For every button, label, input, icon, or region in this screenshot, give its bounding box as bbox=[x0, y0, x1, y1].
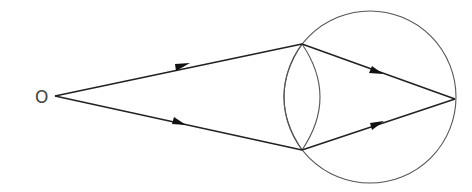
upper-refracted-ray bbox=[302, 44, 455, 99]
upper-incident-ray bbox=[0, 0, 302, 96]
eye-lens-ray-diagram: O bbox=[0, 0, 472, 192]
eyeball-circle bbox=[284, 11, 456, 183]
lower-incident-ray bbox=[55, 96, 302, 150]
eye-lens bbox=[284, 44, 320, 150]
lower-refracted-ray bbox=[302, 99, 455, 150]
object-label: O bbox=[35, 87, 48, 107]
